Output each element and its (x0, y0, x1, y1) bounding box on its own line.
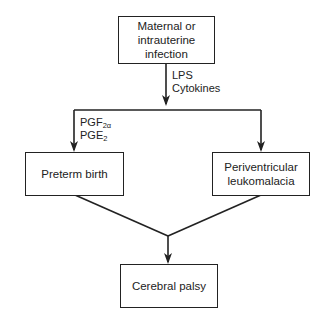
edge-label-mediators: LPS Cytokines (172, 69, 220, 95)
node-infection-line-1: Maternal or (137, 19, 195, 33)
label-pge-sub: 2 (103, 134, 107, 143)
node-periventricular-leukomalacia: Periventricular leukomalacia (212, 152, 310, 196)
label-lps: LPS (172, 69, 220, 82)
label-pgf-base: PGF (80, 116, 103, 128)
node-infection: Maternal or intrauterine infection (118, 16, 215, 64)
node-infection-line-3: infection (137, 47, 195, 61)
label-pge2: PGE2 (80, 129, 111, 142)
line-preterm-to-junction (75, 195, 168, 236)
node-pvl-line-1: Periventricular (224, 160, 298, 174)
node-pvl-line-2: leukomalacia (224, 174, 298, 188)
node-cerebral-palsy: Cerebral palsy (120, 264, 218, 308)
node-preterm-birth: Preterm birth (25, 152, 124, 196)
node-infection-line-2: intrauterine (137, 33, 195, 47)
node-preterm-birth-label: Preterm birth (41, 167, 107, 181)
label-pge-base: PGE (80, 129, 103, 141)
node-cerebral-palsy-label: Cerebral palsy (132, 279, 206, 293)
flowchart-diagram: Maternal or intrauterine infection LPS C… (0, 0, 326, 325)
label-pgf2a: PGF2α (80, 116, 111, 129)
edge-label-prostaglandins: PGF2α PGE2 (80, 116, 111, 142)
label-cytokines: Cytokines (172, 82, 220, 95)
line-pvl-to-junction (168, 195, 261, 236)
